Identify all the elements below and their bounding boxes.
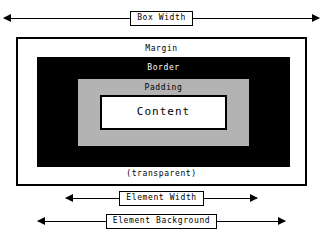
margin-label: Margin [18, 44, 305, 54]
padding-label: Padding [78, 83, 249, 93]
measure-element-width: Element Width [66, 190, 257, 206]
content-label: Content [102, 105, 225, 118]
padding-box: Padding Content [78, 79, 249, 146]
label-box-width: Box Width [130, 11, 193, 26]
arrow-left-element-background [38, 221, 106, 222]
measure-box-width: Box Width [4, 10, 319, 26]
measure-element-background: Element Background [38, 213, 285, 229]
margin-box: Margin Border Padding Content (transpare… [16, 37, 307, 186]
arrow-right-element-width [204, 198, 257, 199]
arrow-left-box-width [4, 18, 130, 19]
arrow-right-box-width [193, 18, 319, 19]
label-element-background: Element Background [106, 214, 218, 229]
arrow-left-element-width [66, 198, 119, 199]
label-element-width: Element Width [119, 191, 203, 206]
box-model-diagram: Box Width Margin Border Padding Content … [0, 0, 323, 244]
arrow-right-element-background [217, 221, 285, 222]
transparent-note: (transparent) [18, 169, 305, 179]
border-label: Border [37, 63, 290, 73]
border-box: Border Padding Content [37, 57, 290, 167]
content-box: Content [100, 95, 227, 130]
